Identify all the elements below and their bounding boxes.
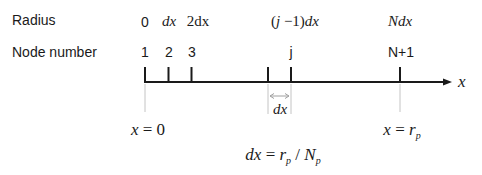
x-symbol: x [383,120,391,139]
slash: / [291,145,304,164]
p-subscript: p [316,155,321,166]
axis-diagram [0,0,482,175]
x-symbol: x [131,120,139,139]
p-subscript: p [416,130,421,141]
dx-dimension-arrow [270,94,289,99]
equals-zero: = 0 [138,120,165,139]
x-equals-zero: x = 0 [131,120,165,140]
equals-sign: = [261,145,279,164]
equals-sign: = [391,120,409,139]
r-symbol: r [279,145,286,164]
dx-symbol: dx [245,145,261,164]
dx-spacing-label: dx [273,101,287,118]
dx-formula: dx = rp / Np [245,145,320,166]
x-axis-arrowhead [443,79,452,86]
n-symbol: N [304,145,315,164]
x-equals-rp: x = rp [383,120,420,141]
x-axis-label: x [458,72,466,92]
